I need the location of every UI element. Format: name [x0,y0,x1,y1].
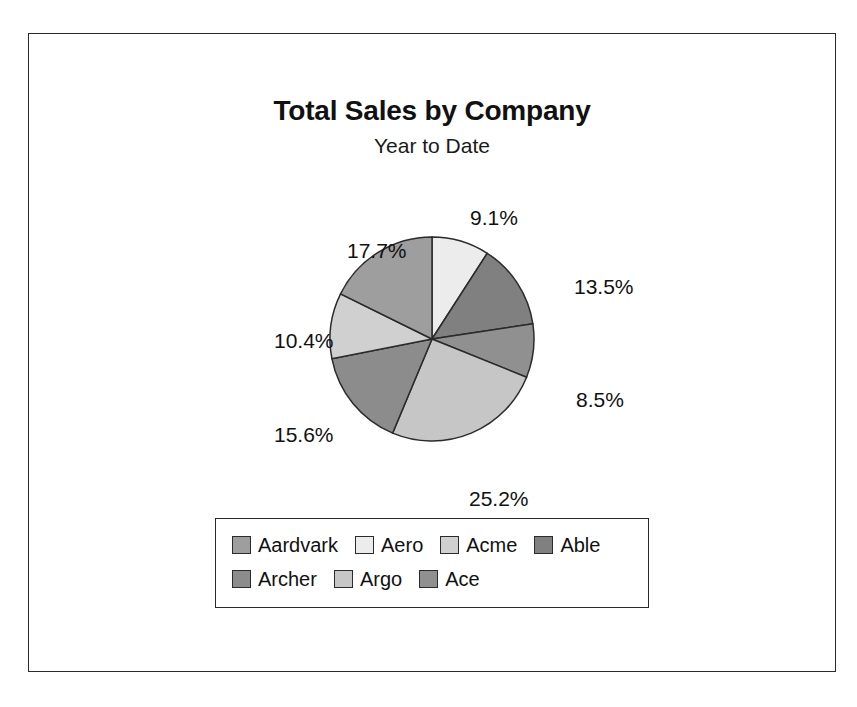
legend-swatch-icon [534,536,553,554]
legend-item-ace[interactable]: Ace [419,569,479,589]
legend-swatch-icon [440,536,459,554]
legend-swatch-icon [232,570,251,588]
page-title: Total Sales by Company [29,96,835,127]
chart-frame: Total Sales by Company Year to Date 9.1%… [28,33,836,672]
legend-item-able[interactable]: Able [534,535,600,555]
legend-item-label: Able [560,535,600,555]
legend-item-label: Aero [381,535,423,555]
legend-item-aero[interactable]: Aero [355,535,423,555]
pie-slice-percent-label: 10.4% [274,330,334,351]
legend-item-aardvark[interactable]: Aardvark [232,535,338,555]
legend-swatch-icon [419,570,438,588]
pie-slice-percent-label: 25.2% [469,488,529,509]
legend-item-label: Argo [360,569,402,589]
legend-item-label: Archer [258,569,317,589]
title-block: Total Sales by Company Year to Date [29,96,835,157]
legend-swatch-icon [355,536,374,554]
legend-item-label: Acme [466,535,517,555]
legend: AardvarkAeroAcmeAble ArcherArgoAce [215,518,649,608]
pie-slice-percent-label: 15.6% [274,424,334,445]
legend-item-acme[interactable]: Acme [440,535,517,555]
chart-subtitle: Year to Date [29,134,835,157]
pie-slice-percent-label: 13.5% [574,276,634,297]
legend-item-label: Aardvark [258,535,338,555]
legend-swatch-icon [334,570,353,588]
legend-item-argo[interactable]: Argo [334,569,402,589]
pie-slice-percent-label: 17.7% [347,240,407,261]
legend-row-1: AardvarkAeroAcmeAble [216,528,648,562]
legend-item-archer[interactable]: Archer [232,569,317,589]
legend-row-2: ArcherArgoAce [216,562,648,596]
pie-slices-group [330,237,534,441]
pie-chart-area: 9.1%13.5%8.5%25.2%15.6%10.4%17.7% [29,184,835,514]
legend-item-label: Ace [445,569,479,589]
pie-slice-percent-label: 8.5% [576,389,624,410]
pie-slice-percent-label: 9.1% [470,207,518,228]
legend-swatch-icon [232,536,251,554]
